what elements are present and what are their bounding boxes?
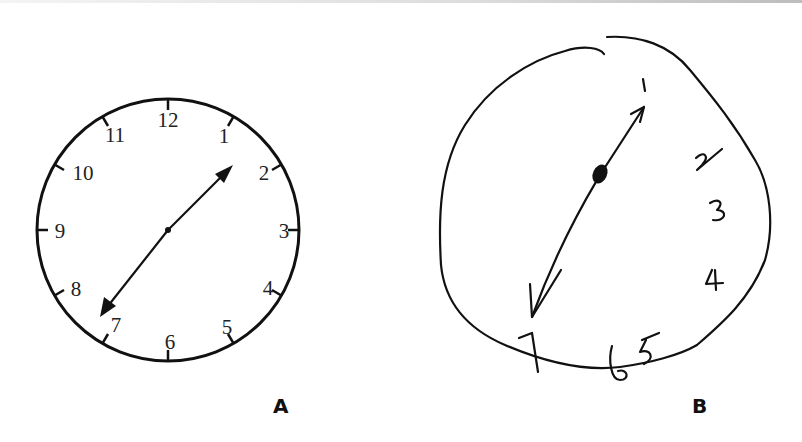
- clock-b-numeral-2: [696, 149, 722, 170]
- clock-b-hand-lower: [532, 175, 600, 317]
- clock-a-numeral-1: 1: [219, 124, 230, 148]
- panel-label-b: B: [692, 394, 707, 418]
- clock-b-numeral-6: [610, 346, 626, 380]
- clock-a-numeral-10: 10: [73, 161, 94, 185]
- clock-a-hands: [100, 165, 233, 317]
- clock-a-numeral-7: 7: [111, 313, 122, 337]
- clock-a-numeral-6: 6: [165, 330, 176, 354]
- clock-a: 12 1 2 3 4 5 6 7 8 9 10 11: [37, 99, 299, 361]
- clock-a-center-pivot: [165, 227, 171, 233]
- clock-b-numeral-4: [706, 270, 723, 290]
- clock-a-numeral-3: 3: [279, 219, 290, 243]
- clock-a-numerals: 12 1 2 3 4 5 6 7 8 9 10 11: [55, 108, 290, 354]
- panel-label-a: A: [273, 394, 288, 418]
- clock-a-hand-lower: [108, 230, 168, 306]
- clock-b-numeral-3: [710, 201, 724, 220]
- clock-a-numeral-11: 11: [105, 123, 125, 147]
- clock-b: [440, 37, 770, 380]
- arrowhead-icon: [631, 107, 644, 122]
- clock-a-numeral-8: 8: [71, 277, 82, 301]
- clock-a-numeral-5: 5: [222, 315, 233, 339]
- clock-b-hand-upper: [600, 107, 644, 175]
- clock-a-numeral-2: 2: [259, 161, 270, 185]
- clock-a-numeral-9: 9: [55, 219, 66, 243]
- clock-b-numeral-1-mark: [643, 79, 645, 91]
- clock-a-numeral-4: 4: [263, 276, 274, 300]
- clock-a-hand-upper: [168, 172, 226, 230]
- clock-a-numeral-12: 12: [158, 108, 179, 132]
